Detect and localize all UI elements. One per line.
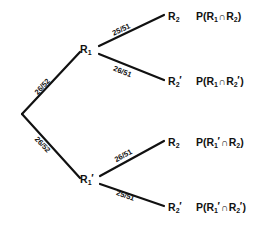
node-r1prime-r2-prime: R2′ (168, 202, 182, 213)
node-r1: R1 (80, 44, 92, 55)
node-r1prime-r2-letter: R (168, 136, 176, 148)
node-r1prime-r2-prime-letter: R (168, 201, 176, 213)
branch-r1prime-to-r2 (100, 141, 164, 176)
node-r1-prime: R1′ (80, 174, 94, 185)
node-r1-letter: R (80, 43, 88, 55)
node-r1-r2-prime: R2′ (168, 76, 182, 87)
intersection-icon: ∩ (218, 76, 226, 87)
intersection-icon: ∩ (220, 137, 228, 148)
node-r1prime-r2-prime-prime-mark: ′ (179, 201, 182, 212)
node-r1-r2-prime-letter: R (168, 75, 176, 87)
node-r1-prime-prime-mark: ′ (91, 173, 94, 184)
outcome-expr-r1-r2: P(R1∩R2) (196, 11, 241, 22)
outcome-expr-r1prime-r2-prime: P(R1′∩R2′) (196, 202, 246, 213)
node-r1-r2: R2 (168, 11, 180, 22)
node-r1-r2-prime-prime-mark: ′ (179, 75, 182, 86)
node-r1-subscript: 1 (88, 49, 92, 56)
intersection-icon: ∩ (218, 11, 226, 22)
node-r1-r2-subscript: 2 (176, 16, 180, 23)
node-r1prime-r2: R2 (168, 137, 180, 148)
branch-root-to-r1-prime (22, 114, 80, 178)
outcome-expr-r1-r2-prime: P(R1∩R2′) (196, 76, 244, 87)
node-r1-r2-letter: R (168, 10, 176, 22)
probability-tree-diagram: R1 R1′ R2 R2′ R2 R2′ P(R1∩R2) P(R1∩R2′) … (0, 0, 264, 234)
node-r1-prime-letter: R (80, 173, 88, 185)
outcome-expr-r1prime-r2: P(R1′∩R2) (196, 137, 244, 148)
branch-r1-to-r2-prime (99, 54, 164, 80)
intersection-icon: ∩ (220, 202, 228, 213)
branch-r1-to-r2 (99, 15, 164, 46)
node-r1prime-r2-subscript: 2 (176, 142, 180, 149)
